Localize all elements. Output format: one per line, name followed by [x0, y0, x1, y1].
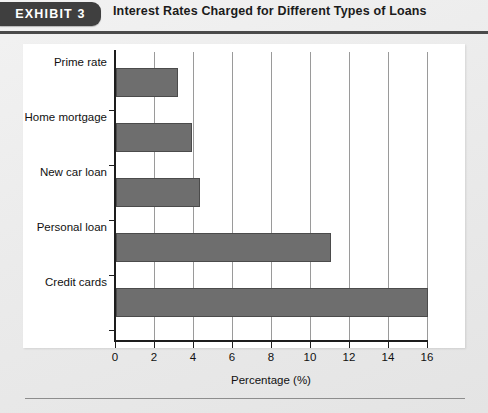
bar-home-mortgage — [116, 123, 192, 152]
x-tick-16 — [427, 342, 428, 348]
x-tick-label-0: 0 — [112, 351, 118, 363]
x-tick-label-12: 12 — [343, 351, 356, 363]
exhibit-figure: EXHIBIT 3 Interest Rates Charged for Dif… — [0, 0, 488, 413]
x-tick-label-14: 14 — [382, 351, 395, 363]
x-tick-label-8: 8 — [268, 351, 274, 363]
y-tick-0 — [109, 110, 115, 111]
footer-divider — [25, 398, 465, 399]
x-tick-label-10: 10 — [304, 351, 317, 363]
x-tick-label-4: 4 — [190, 351, 196, 363]
exhibit-header: EXHIBIT 3 Interest Rates Charged for Dif… — [0, 0, 488, 30]
exhibit-badge: EXHIBIT 3 — [0, 2, 101, 26]
x-tick-2 — [154, 342, 155, 348]
x-tick-12 — [349, 342, 350, 348]
y-tick-4 — [109, 330, 115, 331]
x-tick-0 — [115, 342, 116, 348]
y-tick-3 — [109, 275, 115, 276]
x-tick-label-16: 16 — [421, 351, 434, 363]
category-label-credit-cards: Credit cards — [45, 276, 107, 288]
y-tick-2 — [109, 220, 115, 221]
exhibit-title: Interest Rates Charged for Different Typ… — [113, 4, 427, 18]
category-label-new-car-loan: New car loan — [40, 166, 107, 178]
category-label-personal-loan: Personal loan — [37, 221, 107, 233]
x-axis-title: Percentage (%) — [115, 374, 427, 386]
bar-credit-cards — [116, 288, 428, 317]
bar-personal-loan — [116, 233, 331, 262]
chart-plot-area: 0246810121416 — [115, 52, 427, 340]
category-axis-labels: Prime rate Home mortgage New car loan Pe… — [0, 44, 107, 344]
x-tick-label-2: 2 — [151, 351, 157, 363]
bar-new-car-loan — [116, 178, 200, 207]
x-tick-14 — [388, 342, 389, 348]
x-tick-6 — [232, 342, 233, 348]
header-divider — [0, 31, 488, 34]
exhibit-badge-label: EXHIBIT 3 — [0, 2, 101, 26]
x-tick-label-6: 6 — [229, 351, 235, 363]
category-label-home-mortgage: Home mortgage — [25, 111, 107, 123]
bar-prime-rate — [116, 68, 178, 97]
category-label-prime-rate: Prime rate — [54, 56, 107, 68]
y-tick-1 — [109, 165, 115, 166]
x-tick-10 — [310, 342, 311, 348]
x-tick-8 — [271, 342, 272, 348]
x-tick-4 — [193, 342, 194, 348]
